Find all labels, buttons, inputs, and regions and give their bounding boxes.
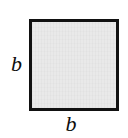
square-shape <box>29 19 119 111</box>
side-label-bottom: b <box>0 113 128 135</box>
side-label-left: b <box>11 53 22 75</box>
square-fill <box>32 22 116 108</box>
geometry-figure: b b <box>0 0 128 138</box>
